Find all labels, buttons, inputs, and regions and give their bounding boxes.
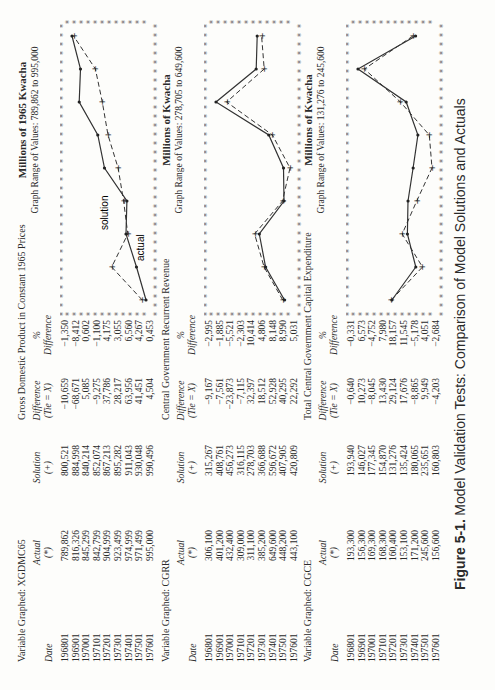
pct-difference-cell: 5,031 [289,320,300,365]
section-title: Gross Domestic Product in Constant 1965 … [16,224,27,420]
pct-difference-cell: 8,990 [278,320,289,365]
svg-text:*: * [204,60,212,64]
pct-difference-header: %Difference [32,310,54,360]
pct-difference-cell: −5,521 [225,320,236,365]
svg-text:*: * [346,33,354,37]
date-cell: 196901 [357,622,368,662]
svg-text:*: * [60,96,68,100]
svg-text:*: * [346,285,354,289]
svg-text:+: + [386,296,396,304]
pct-difference-cell: −2,684 [431,320,442,365]
solution-cell: 840,214 [81,445,92,495]
difference-cell: 28,217 [113,378,124,428]
legend-solution: solution [99,196,110,230]
svg-text:*: * [153,42,158,46]
pct-difference-cell: −2,995 [204,320,215,365]
svg-text:*: * [346,303,354,307]
svg-text:*: * [204,276,212,280]
svg-text:*: * [346,204,354,208]
svg-text:*: * [153,123,158,127]
graph-range: Graph Range of Values: 131,276 to 245,60… [316,0,326,270]
comparison-graph: ****************************************… [204,18,302,318]
svg-text:+: + [427,164,437,172]
solution-cell: 131,276 [388,445,399,495]
svg-text:*: * [346,240,354,244]
svg-text:*: * [204,132,212,136]
pct-difference-cell: 6,560 [124,320,135,365]
svg-text:+: + [113,164,123,172]
svg-text:*: * [439,249,444,253]
solution-cell: 407,905 [278,445,289,495]
svg-text:+: + [222,98,232,106]
svg-text:+: + [119,197,129,205]
svg-text:*: * [60,294,68,298]
svg-text:*: * [286,312,295,316]
svg-text:*: * [60,123,68,127]
svg-text:+: + [259,263,269,271]
svg-text:*: * [153,186,158,190]
svg-text:*: * [60,51,68,55]
svg-text:*: * [439,222,444,226]
svg-text:*: * [204,204,212,208]
pct-difference-cell: 4,051 [420,320,431,365]
graph-unit: Millions of 1965 Kwacha [16,5,28,235]
variable-label: Variable Graphed: CGRR [160,559,171,662]
difference-cell: 52,928 [268,378,279,428]
difference-cell: 18,512 [257,378,268,428]
difference-cell: 37,786 [102,378,113,428]
date-cell: 196801 [60,622,71,662]
svg-text:*: * [204,177,212,181]
svg-text:*: * [439,87,444,91]
svg-text:*: * [60,150,68,154]
svg-text:*: * [204,123,212,127]
svg-text:+: + [395,98,405,106]
solution-cell: 160,803 [431,445,442,495]
actual-cell: 245,600 [420,530,431,580]
solution-cell: 895,282 [113,445,124,495]
svg-text:*: * [346,141,354,145]
svg-text:*: * [439,51,444,55]
svg-text:*: * [346,159,354,163]
solution-column: 193,940146,027177,345154,870131,276135,4… [346,445,441,495]
actual-header: Actual(*) [318,525,340,580]
actual-cell: 971,499 [134,530,145,580]
date-cell: 197401 [124,622,135,662]
svg-text:*: * [439,213,444,217]
pct-difference-cell: −1,350 [60,320,71,365]
svg-text:*: * [439,303,444,307]
difference-header: Difference(Tie = X) [176,373,198,428]
date-cell: 197301 [113,622,124,662]
svg-text:*: * [204,195,212,199]
svg-text:*: * [60,303,68,307]
date-cell: 197001 [225,622,236,662]
svg-text:*: * [153,60,158,64]
svg-text:+: + [97,98,107,106]
svg-text:*: * [153,24,158,28]
difference-column: −0,64010,273−8,04513,43029,12417,676−8,8… [346,378,441,428]
pct-difference-cell: 10,414 [246,320,257,365]
date-cell: 197301 [257,622,268,662]
actual-line [216,36,285,300]
svg-text:*: * [346,105,354,109]
svg-text:+: + [103,131,113,139]
date-cell: 197101 [92,622,103,662]
svg-text:*: * [153,249,158,253]
actual-cell: 845,299 [81,530,92,580]
svg-text:+: + [408,32,418,40]
variable-label: Variable Graphed: CGCE [302,560,313,662]
svg-text:*: * [60,267,68,271]
svg-text:*: * [346,294,354,298]
solution-cell: 316,115 [236,445,247,495]
svg-text:*: * [153,105,158,109]
svg-text:*: * [153,267,158,271]
svg-text:*: * [346,258,354,262]
svg-text:+: + [278,296,288,304]
difference-cell: 9,949 [420,378,431,428]
svg-text:*: * [439,105,444,109]
svg-text:*: * [60,249,68,253]
svg-text:+: + [417,263,427,271]
difference-cell: −0,640 [346,378,357,428]
svg-text:*: * [60,168,68,172]
svg-text:*: * [346,24,354,28]
solution-column: 800,521884,998840,214852,074867,213895,2… [60,445,155,495]
